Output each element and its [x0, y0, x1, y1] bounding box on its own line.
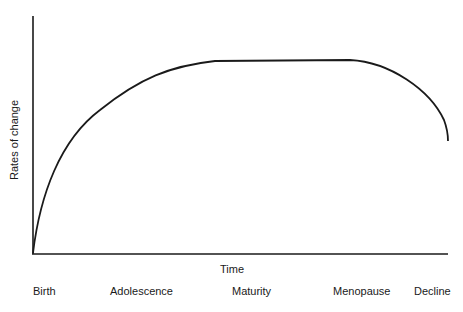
- x-axis-label: Time: [220, 263, 244, 275]
- stage-label-menopause: Menopause: [333, 285, 391, 297]
- y-axis-label: Rates of change: [8, 100, 20, 180]
- stage-label-maturity: Maturity: [232, 285, 271, 297]
- stage-label-decline: Decline: [414, 285, 451, 297]
- stage-label-adolescence: Adolescence: [110, 285, 173, 297]
- stage-label-birth: Birth: [33, 285, 56, 297]
- life-curve: [33, 60, 448, 253]
